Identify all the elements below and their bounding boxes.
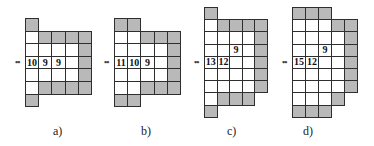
open-cell	[51, 68, 65, 82]
open-cell	[292, 31, 306, 44]
open-cell: 9	[38, 56, 52, 70]
open-cell	[65, 68, 79, 82]
open-cell	[318, 92, 332, 105]
open-cell: 15	[292, 56, 306, 69]
shaded-cell	[65, 81, 79, 95]
shaded-cell	[78, 68, 92, 82]
open-cell	[114, 81, 128, 95]
open-cell	[217, 31, 231, 44]
shaded-cell	[154, 81, 168, 95]
shaded-cell	[51, 81, 65, 95]
open-cell: 10	[127, 56, 141, 70]
shaded-cell	[38, 81, 52, 95]
shaded-cell	[254, 80, 268, 93]
open-cell	[229, 56, 243, 69]
open-cell	[127, 81, 141, 95]
shaded-cell	[344, 56, 358, 69]
shaded-cell	[242, 19, 256, 32]
shaded-cell	[167, 56, 181, 70]
open-cell	[242, 31, 256, 44]
shaded-cell	[167, 43, 181, 57]
open-cell: 13	[204, 56, 218, 69]
caption-c: c)	[227, 124, 236, 139]
open-cell	[140, 43, 154, 57]
open-cell	[305, 19, 319, 32]
open-cell	[51, 43, 65, 57]
open-cell	[242, 56, 256, 69]
open-cell	[204, 92, 218, 105]
shaded-cell	[78, 56, 92, 70]
open-cell	[305, 31, 319, 44]
open-cell	[318, 31, 332, 44]
open-cell: 12	[217, 56, 231, 69]
open-cell	[331, 80, 345, 93]
shaded-cell	[331, 92, 345, 105]
entry-marker: ••	[194, 57, 198, 67]
open-cell	[114, 31, 128, 45]
shaded-cell	[318, 105, 332, 118]
entry-marker: ••	[15, 57, 19, 67]
open-cell: 9	[140, 56, 154, 70]
open-cell	[292, 92, 306, 105]
open-cell	[154, 43, 168, 57]
shaded-cell	[217, 92, 231, 105]
entry-marker: ••	[104, 57, 108, 67]
open-cell	[318, 19, 332, 32]
shaded-cell	[25, 18, 39, 32]
shaded-cell	[140, 81, 154, 95]
shaded-cell	[344, 19, 358, 32]
shaded-cell	[114, 94, 128, 108]
shaded-cell	[254, 56, 268, 69]
shaded-cell	[167, 31, 181, 45]
open-cell	[140, 68, 154, 82]
open-cell	[242, 44, 256, 57]
shaded-cell	[254, 44, 268, 57]
shaded-cell	[217, 19, 231, 32]
open-cell	[65, 56, 79, 70]
open-cell	[217, 44, 231, 57]
open-cell: 11	[114, 56, 128, 70]
shaded-cell	[204, 105, 218, 118]
open-cell	[229, 31, 243, 44]
shaded-cell	[344, 80, 358, 93]
open-cell: 12	[305, 56, 319, 69]
shaded-cell	[154, 31, 168, 45]
shaded-cell	[344, 31, 358, 44]
open-cell	[331, 56, 345, 69]
shaded-cell	[344, 44, 358, 57]
open-cell	[38, 68, 52, 82]
entry-marker: ••	[282, 57, 286, 67]
open-cell	[204, 19, 218, 32]
open-cell	[229, 80, 243, 93]
shaded-cell	[331, 19, 345, 32]
shaded-cell	[229, 92, 243, 105]
shaded-cell	[114, 18, 128, 32]
open-cell	[127, 31, 141, 45]
open-cell	[331, 44, 345, 57]
open-cell: 9	[318, 44, 332, 57]
open-cell	[242, 80, 256, 93]
open-cell	[204, 31, 218, 44]
shaded-cell	[242, 92, 256, 105]
shaded-cell	[167, 68, 181, 82]
shaded-cell	[127, 18, 141, 32]
open-cell	[331, 31, 345, 44]
shaded-cell	[254, 31, 268, 44]
shaded-cell	[78, 43, 92, 57]
open-cell	[305, 44, 319, 57]
shaded-cell	[167, 81, 181, 95]
open-cell	[25, 68, 39, 82]
caption-a: a)	[53, 124, 62, 139]
shaded-cell	[127, 94, 141, 108]
shaded-cell	[78, 31, 92, 45]
open-cell: 9	[229, 44, 243, 57]
shaded-cell	[65, 31, 79, 45]
open-cell	[154, 68, 168, 82]
open-cell	[305, 92, 319, 105]
open-cell	[318, 56, 332, 69]
open-cell	[38, 43, 52, 57]
shaded-cell	[51, 31, 65, 45]
open-cell: 9	[51, 56, 65, 70]
open-cell	[305, 80, 319, 93]
shaded-cell	[140, 31, 154, 45]
